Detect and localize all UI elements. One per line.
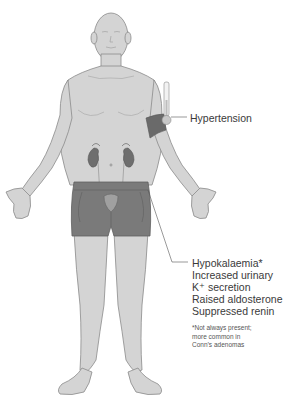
shorts (71, 182, 150, 236)
footnote-line: Conn’s adenomas (192, 341, 252, 350)
finding-aldosterone: Raised aldosterone (192, 293, 282, 305)
footnote-line: more common in (192, 333, 252, 342)
finding-k-secretion: K⁺ secretion (192, 281, 282, 293)
finding-renin: Suppressed renin (192, 305, 282, 317)
findings-leader (148, 190, 188, 262)
footnote-line: *Not always present; (192, 324, 252, 333)
footnote: *Not always present; more common in Conn… (192, 324, 252, 350)
finding-urinary: Increased urinary (192, 269, 282, 281)
findings-list: Hypokalaemia* Increased urinary K⁺ secre… (192, 257, 282, 317)
hypertension-label: Hypertension (190, 112, 252, 124)
thermometer-icon (162, 82, 171, 125)
finding-hypokalaemia: Hypokalaemia* (192, 257, 282, 269)
